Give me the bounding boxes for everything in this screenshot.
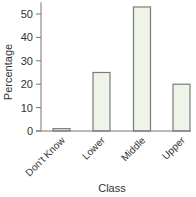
x-tick-label: Upper [160, 134, 188, 162]
bar-chart: 01020304050 Don't KnowLowerMiddleUpper P… [0, 0, 196, 197]
x-tick-label: Middle [119, 134, 148, 163]
x-axis-label: Class [98, 182, 126, 194]
y-tick-label: 50 [21, 8, 33, 20]
y-axis: 01020304050 [21, 2, 41, 137]
x-tick-label: Don't Know [23, 134, 67, 178]
y-tick-label: 10 [21, 102, 33, 114]
bars [53, 7, 190, 131]
y-axis-label: Percentage [2, 44, 14, 100]
chart-canvas: 01020304050 Don't KnowLowerMiddleUpper P… [0, 0, 196, 197]
y-tick-label: 30 [21, 55, 33, 67]
y-tick-label: 20 [21, 78, 33, 90]
bar-upper [173, 84, 190, 131]
y-tick-label: 40 [21, 31, 33, 43]
x-axis: Don't KnowLowerMiddleUpper [23, 131, 191, 178]
y-tick-label: 0 [27, 125, 33, 137]
x-tick-label: Lower [80, 134, 108, 162]
bar-middle [134, 7, 151, 131]
bar-lower [93, 73, 110, 132]
